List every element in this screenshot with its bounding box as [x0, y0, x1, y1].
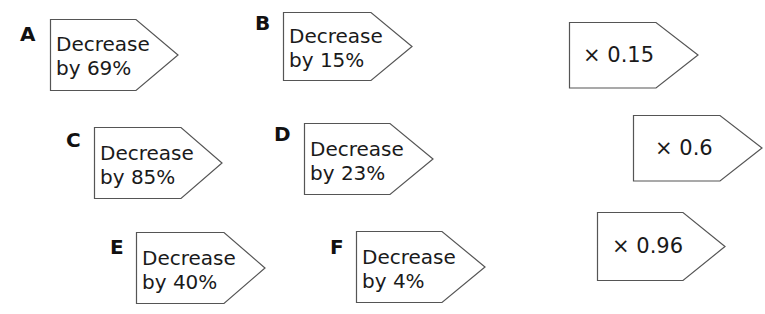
decrease-tag-b: Decrease by 15% — [283, 12, 415, 82]
multiplier-tag-2: × 0.96 — [597, 212, 729, 282]
tag-line-2: by 15% — [289, 48, 383, 72]
decrease-tag-c: Decrease by 85% — [94, 127, 226, 200]
card-letter-e: E — [110, 237, 124, 257]
multiplier-label: × 0.15 — [583, 43, 654, 67]
card-letter-c: C — [66, 130, 81, 150]
tag-line-2: by 69% — [56, 56, 150, 80]
tag-line-1: Decrease — [142, 246, 236, 270]
card-letter-b: B — [255, 13, 270, 33]
multiplier-label: × 0.6 — [655, 136, 713, 160]
decrease-tag-e: Decrease by 40% — [136, 232, 268, 305]
tag-line-2: by 4% — [362, 269, 456, 293]
tag-line-1: Decrease — [289, 24, 383, 48]
card-letter-a: A — [20, 24, 35, 44]
tag-line-2: by 40% — [142, 270, 236, 294]
tag-line-1: Decrease — [310, 137, 404, 161]
decrease-tag-d: Decrease by 23% — [304, 123, 436, 196]
card-letter-d: D — [274, 124, 291, 144]
multiplier-tag-1: × 0.6 — [633, 115, 765, 182]
tag-line-1: Decrease — [100, 141, 194, 165]
tag-line-1: Decrease — [56, 32, 150, 56]
card-letter-f: F — [330, 237, 344, 257]
multiplier-tag-0: × 0.15 — [569, 22, 701, 89]
tag-line-2: by 85% — [100, 165, 194, 189]
decrease-tag-f: Decrease by 4% — [356, 231, 488, 304]
tag-line-1: Decrease — [362, 245, 456, 269]
decrease-tag-a: Decrease by 69% — [50, 19, 180, 91]
tag-line-2: by 23% — [310, 161, 404, 185]
multiplier-label: × 0.96 — [612, 234, 683, 258]
